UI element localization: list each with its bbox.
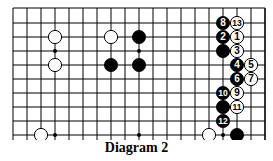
star-point [221,133,225,137]
white-stone [48,58,61,71]
star-point [137,133,141,137]
black-stone [132,30,145,43]
star-point [53,49,57,53]
go-board: 81321345671091112 [0,0,273,140]
move-number-label: 13 [232,18,242,28]
black-stone [104,58,117,71]
move-number-label: 3 [234,45,240,56]
white-stone [48,30,61,43]
move-number-label: 10 [218,88,228,98]
move-number-label: 2 [220,31,226,42]
star-point [53,133,57,137]
black-stone [230,128,243,140]
star-point [137,49,141,53]
move-number-label: 6 [234,73,240,84]
black-stone [132,58,145,71]
move-number-label: 12 [218,116,228,126]
move-number-label: 8 [220,17,226,28]
move-number-label: 9 [234,87,240,98]
white-stone [202,128,215,140]
white-stone [104,30,117,43]
black-stone [216,44,229,57]
move-number-label: 5 [248,59,254,70]
move-number-label: 7 [248,73,254,84]
black-stone [216,100,229,113]
move-number-label: 11 [233,102,242,112]
white-stone [34,128,47,140]
move-number-label: 1 [234,31,240,42]
diagram-caption: Diagram 2 [0,140,273,156]
move-number-label: 4 [234,59,240,70]
